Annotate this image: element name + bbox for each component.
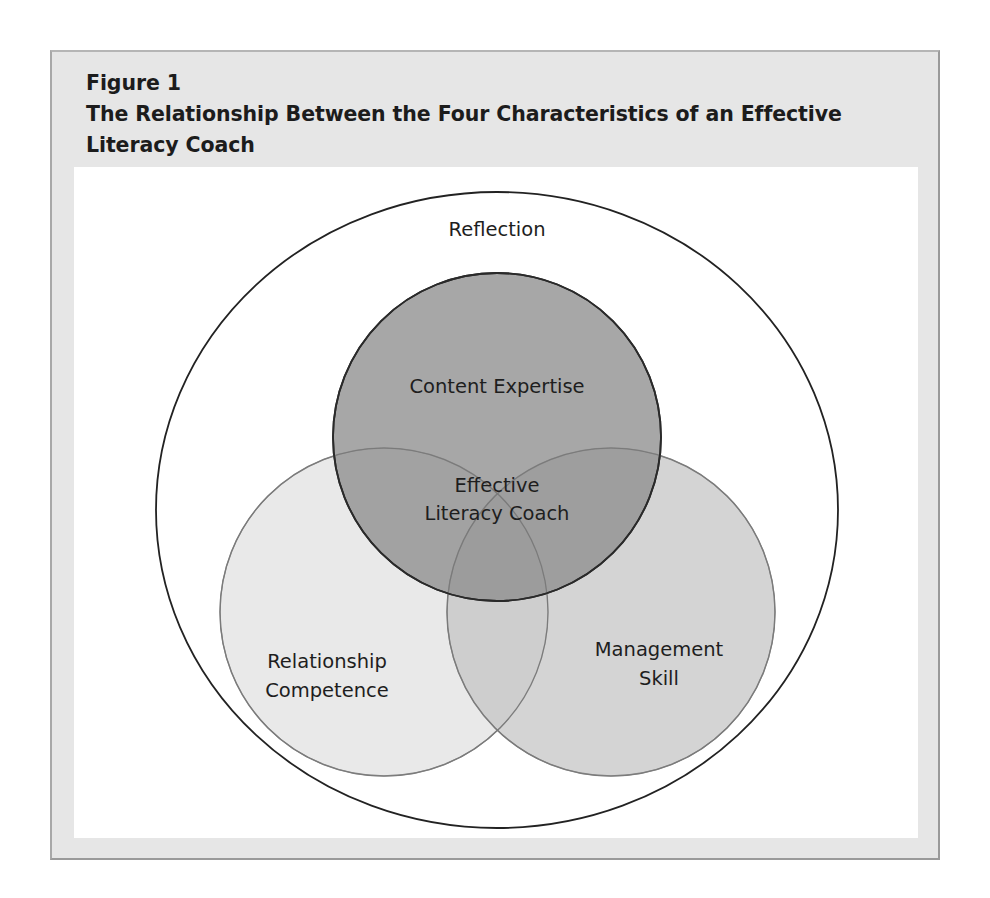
- venn-diagram: Reflection Content Expertise Effective L…: [0, 0, 990, 898]
- content-expertise-label: Content Expertise: [409, 375, 584, 398]
- center-label-line-1: Effective: [454, 474, 539, 497]
- relationship-competence-label-line-1: Relationship: [267, 650, 387, 673]
- center-label-line-2: Literacy Coach: [425, 502, 570, 525]
- reflection-label: Reflection: [448, 218, 545, 241]
- management-skill-label-line-2: Skill: [639, 667, 679, 690]
- management-skill-label-line-1: Management: [595, 638, 724, 661]
- relationship-competence-label-line-2: Competence: [265, 679, 389, 702]
- content-expertise-circle: [333, 273, 661, 601]
